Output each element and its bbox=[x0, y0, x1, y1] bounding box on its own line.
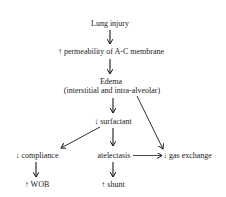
arrow-surfactant-to-compliance bbox=[61, 127, 100, 148]
lung-injury-flowchart: Lung injury ↑ permeability of A-C membra… bbox=[0, 0, 226, 197]
node-gas-exchange: ↓ gas exchange bbox=[163, 151, 212, 160]
node-edema-subtitle: (interstitial and intra-alveolar) bbox=[64, 86, 160, 95]
node-shunt: ↑ shunt bbox=[101, 180, 124, 189]
node-wob: ↑ WOB bbox=[25, 180, 50, 189]
flowchart-edges bbox=[0, 0, 226, 197]
node-compliance: ↓ compliance bbox=[16, 151, 59, 160]
node-edema: Edema bbox=[100, 77, 122, 86]
arrow-edema-to-gas-exchange bbox=[137, 96, 163, 149]
node-lung-injury: Lung injury bbox=[91, 19, 129, 28]
node-atelectasis: atelectasis bbox=[98, 151, 131, 160]
node-surfactant: ↓ surfactant bbox=[94, 117, 132, 126]
node-permeability: ↑ permeability of A-C membrane bbox=[58, 47, 164, 56]
